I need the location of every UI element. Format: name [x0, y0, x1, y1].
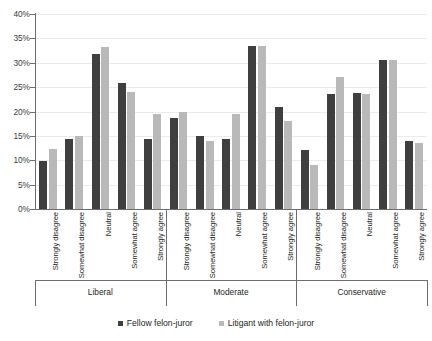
legend-item: Fellow felon-juror	[118, 318, 193, 328]
chart-legend: Fellow felon-jurorLitigant with felon-ju…	[0, 318, 432, 328]
x-category-label: Neutral	[365, 212, 374, 236]
bar	[179, 112, 187, 209]
bar	[336, 77, 344, 209]
bar	[353, 93, 361, 209]
bar	[379, 60, 387, 209]
bar	[415, 143, 423, 209]
bar	[65, 139, 73, 209]
bar	[153, 114, 161, 209]
x-category-label: Somewhat disagree	[77, 212, 86, 278]
x-category-label: Strongly agree	[286, 212, 295, 261]
bar	[222, 139, 230, 209]
x-category-label: Somewhat disagree	[339, 212, 348, 278]
legend-swatch-icon	[219, 321, 224, 326]
y-tick-label: 35%	[0, 33, 30, 43]
y-tick-label: 25%	[0, 82, 30, 92]
y-tick-label: 15%	[0, 131, 30, 141]
bar	[127, 92, 135, 209]
y-tick-label: 30%	[0, 58, 30, 68]
group-band-line	[166, 280, 297, 281]
group-separator	[35, 280, 36, 306]
group-band-line	[35, 280, 166, 281]
group-separator	[166, 280, 167, 306]
legend-swatch-icon	[118, 321, 123, 326]
bar	[170, 118, 178, 209]
bar	[196, 136, 204, 209]
group-label: Liberal	[35, 287, 166, 297]
bar	[258, 46, 266, 209]
bar	[75, 136, 83, 209]
x-category-label: Neutral	[104, 212, 113, 236]
x-category-label: Strongly agree	[156, 212, 165, 261]
x-category-label: Somewhat disagree	[208, 212, 217, 278]
x-category-label: Somewhat agree	[130, 212, 139, 269]
bar	[284, 121, 292, 209]
x-category-label: Strongly disagree	[182, 212, 191, 270]
group-band-line	[296, 280, 427, 281]
bar	[275, 107, 283, 209]
bar	[310, 165, 318, 209]
bar	[49, 149, 57, 209]
bars-layer	[35, 14, 427, 209]
bar	[206, 141, 214, 209]
x-category-label: Strongly disagree	[313, 212, 322, 270]
bar	[92, 54, 100, 209]
legend-label: Fellow felon-juror	[127, 318, 193, 328]
x-category-label: Strongly agree	[417, 212, 426, 261]
y-tick-label: 20%	[0, 107, 30, 117]
legend-item: Litigant with felon-juror	[219, 318, 314, 328]
x-category-label: Somewhat agree	[391, 212, 400, 269]
bar	[389, 60, 397, 209]
bar	[362, 94, 370, 209]
group-separator	[427, 280, 428, 306]
bar	[39, 161, 47, 209]
y-tick-label: 5%	[0, 180, 30, 190]
bar	[327, 94, 335, 209]
x-category-label: Somewhat agree	[260, 212, 269, 269]
x-category-label: Strongly disagree	[51, 212, 60, 270]
bar	[232, 114, 240, 209]
group-divider	[296, 210, 297, 280]
grouped-bar-chart: 0%5%10%15%20%25%30%35%40% Strongly disag…	[0, 0, 432, 341]
group-divider	[166, 210, 167, 280]
y-tick-label: 0%	[0, 204, 30, 214]
bar	[405, 141, 413, 209]
x-axis-line	[35, 209, 427, 210]
bar	[144, 139, 152, 209]
x-category-label: Neutral	[234, 212, 243, 236]
y-tick-label: 10%	[0, 155, 30, 165]
bar	[248, 46, 256, 209]
bar	[101, 47, 109, 209]
legend-label: Litigant with felon-juror	[228, 318, 314, 328]
group-separator	[296, 280, 297, 306]
group-label: Moderate	[166, 287, 297, 297]
group-label: Conservative	[296, 287, 427, 297]
y-tick-label: 40%	[0, 9, 30, 19]
bar	[118, 83, 126, 209]
bar	[301, 150, 309, 209]
